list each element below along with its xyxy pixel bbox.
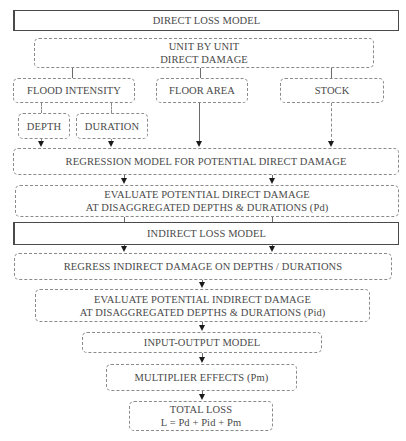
indirect-loss-model-label: INDIRECT LOSS MODEL (147, 227, 266, 240)
regress-indirect-damage-label: REGRESS INDIRECT DAMAGE ON DEPTHS / DURA… (64, 260, 343, 273)
arrow-down-icon (269, 178, 275, 184)
input-output-model-label: INPUT-OUTPUT MODEL (144, 336, 260, 349)
floor-area-label: FLOOR AREA (169, 84, 235, 97)
input-output-model-box: INPUT-OUTPUT MODEL (82, 332, 322, 353)
connector-unit-to-stock (331, 68, 332, 78)
arrow-down-icon (199, 325, 205, 331)
total-loss-box: TOTAL LOSS L = Pd + Pid + Pm (129, 401, 273, 431)
arrow-down-icon (328, 141, 334, 147)
arrow-down-icon (269, 246, 275, 252)
stock-box: STOCK (280, 78, 384, 103)
evaluate-direct-damage-box: EVALUATE POTENTIAL DIRECT DAMAGE AT DISA… (15, 185, 399, 217)
connector-unit-to-floor-area (200, 68, 201, 78)
floor-area-box: FLOOR AREA (156, 78, 248, 103)
unit-by-unit-direct-damage-box: UNIT BY UNIT DIRECT DAMAGE (34, 38, 374, 68)
multiplier-effects-label: MULTIPLIER EFFECTS (Pm) (135, 371, 269, 384)
arrow-down-icon (108, 141, 114, 147)
arrow-down-icon (121, 178, 127, 184)
duration-box: DURATION (76, 113, 148, 139)
regress-indirect-damage-box: REGRESS INDIRECT DAMAGE ON DEPTHS / DURA… (14, 253, 392, 280)
arrow-down-icon (199, 357, 205, 363)
unit-by-unit-line2: DIRECT DAMAGE (160, 53, 248, 66)
arrow-down-icon (196, 141, 202, 147)
depth-label: DEPTH (27, 120, 61, 133)
regression-direct-damage-box: REGRESSION MODEL FOR POTENTIAL DIRECT DA… (13, 148, 399, 175)
total-loss-formula: L = Pd + Pid + Pm (161, 416, 241, 429)
connector-floor-area-to-regression (199, 103, 200, 142)
indirect-loss-model-header: INDIRECT LOSS MODEL (13, 222, 399, 245)
unit-by-unit-line1: UNIT BY UNIT (169, 40, 240, 53)
arrow-down-icon (38, 141, 44, 147)
stock-label: STOCK (315, 84, 350, 97)
direct-loss-model-label: DIRECT LOSS MODEL (153, 14, 261, 27)
arrow-down-icon (121, 246, 127, 252)
multiplier-effects-box: MULTIPLIER EFFECTS (Pm) (106, 364, 297, 391)
flood-intensity-label: FLOOD INTENSITY (27, 84, 121, 97)
total-loss-line1: TOTAL LOSS (170, 403, 232, 416)
arrow-down-icon (199, 394, 205, 400)
regression-direct-damage-label: REGRESSION MODEL FOR POTENTIAL DIRECT DA… (66, 155, 347, 168)
duration-label: DURATION (85, 120, 139, 133)
flood-intensity-box: FLOOD INTENSITY (13, 78, 135, 103)
connector-flood-to-duration (111, 103, 112, 113)
evaluate-indirect-line2: AT DISAGGREGATED DEPTHS & DURATIONS (Pid… (80, 306, 326, 319)
connector-unit-to-flood-intensity (72, 68, 73, 78)
connector-flood-to-depth (41, 103, 42, 113)
connector-stock-to-regression (331, 103, 332, 142)
evaluate-indirect-line1: EVALUATE POTENTIAL INDIRECT DAMAGE (94, 293, 311, 306)
evaluate-direct-line2: AT DISAGGREGATED DEPTHS & DURATIONS (Pd) (86, 201, 329, 214)
evaluate-direct-line1: EVALUATE POTENTIAL DIRECT DAMAGE (104, 188, 310, 201)
direct-loss-model-header: DIRECT LOSS MODEL (13, 10, 399, 31)
evaluate-indirect-damage-box: EVALUATE POTENTIAL INDIRECT DAMAGE AT DI… (35, 289, 370, 322)
arrow-down-icon (199, 282, 205, 288)
depth-box: DEPTH (18, 113, 70, 139)
